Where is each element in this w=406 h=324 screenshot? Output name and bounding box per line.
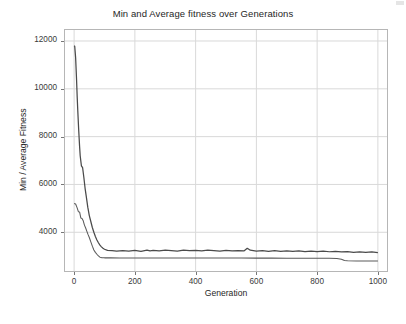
x-tick-mark (256, 272, 257, 275)
y-tick-mark (61, 89, 64, 90)
x-tick-mark (378, 272, 379, 275)
y-tick-label: 8000 (13, 131, 57, 140)
x-tick-label: 800 (294, 277, 340, 286)
scan-artifact-mark (396, 1, 404, 5)
x-tick-label: 600 (233, 277, 279, 286)
data-series-layer (74, 46, 378, 261)
x-tick-mark (74, 272, 75, 275)
chart-svg (65, 30, 387, 271)
x-tick-mark (135, 272, 136, 275)
plot-area (64, 29, 388, 272)
x-tick-label: 0 (51, 277, 97, 286)
y-tick-label: 12000 (13, 35, 57, 44)
y-tick-mark (61, 232, 64, 233)
x-tick-label: 400 (173, 277, 219, 286)
y-tick-mark (61, 137, 64, 138)
y-tick-mark (61, 41, 64, 42)
chart-title: Min and Average fitness over Generations (0, 8, 406, 19)
series-line-1 (74, 46, 378, 253)
x-tick-mark (317, 272, 318, 275)
y-tick-label: 4000 (13, 227, 57, 236)
y-tick-label: 10000 (13, 83, 57, 92)
x-axis-label: Generation (64, 288, 388, 298)
x-tick-label: 200 (112, 277, 158, 286)
gridlines (65, 30, 387, 271)
y-tick-label: 6000 (13, 179, 57, 188)
x-tick-label: 1000 (355, 277, 401, 286)
figure-canvas: Min and Average fitness over Generations… (0, 0, 406, 324)
x-tick-mark (196, 272, 197, 275)
y-tick-mark (61, 184, 64, 185)
